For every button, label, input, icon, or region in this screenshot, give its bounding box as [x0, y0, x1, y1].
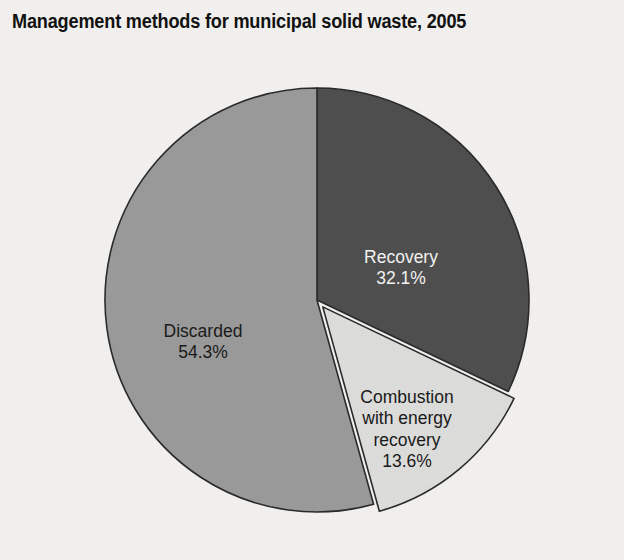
- pie-chart-svg: [0, 0, 624, 560]
- pie-chart-figure: Management methods for municipal solid w…: [0, 0, 624, 560]
- pie-slices-group: [105, 88, 529, 512]
